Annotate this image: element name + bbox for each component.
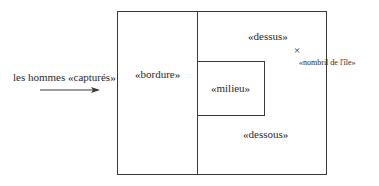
nombril-label: «nombril de l'île»	[299, 58, 356, 67]
cross-marker-icon: ×	[294, 45, 300, 56]
region-dessus-label: «dessus»	[248, 30, 288, 42]
region-milieu-label: «milieu»	[211, 82, 250, 94]
entry-label: les hommes «capturés»	[13, 71, 116, 83]
region-bordure-label: «bordure»	[135, 68, 180, 80]
region-dessous-label: «dessous»	[243, 128, 288, 140]
entry-arrow-icon	[40, 86, 100, 94]
